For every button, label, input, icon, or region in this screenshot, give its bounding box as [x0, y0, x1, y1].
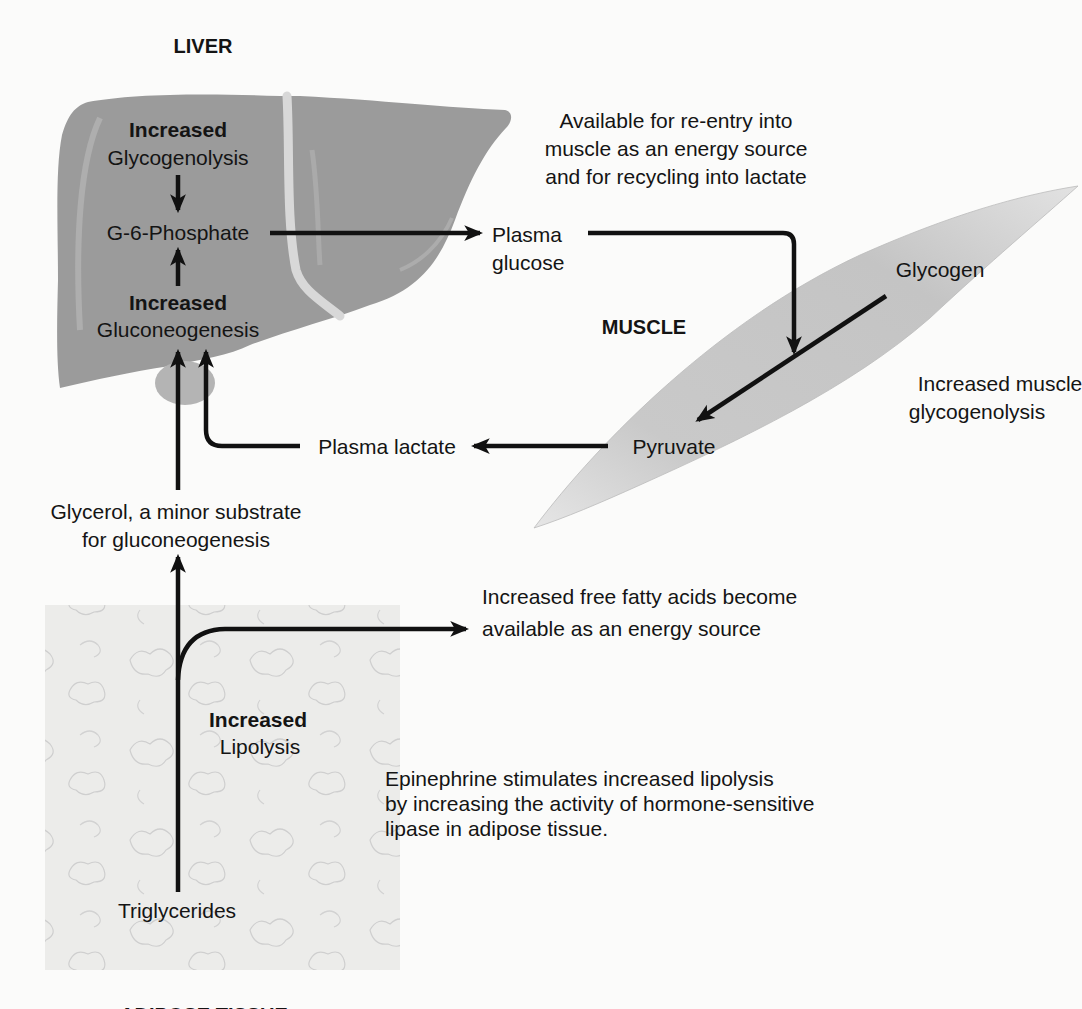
glycerol-line1: Glycerol, a minor substrate — [51, 500, 302, 523]
muscle-shape — [534, 186, 1078, 528]
glycogenolysis-label: Glycogenolysis — [107, 146, 248, 169]
lipolysis-qualifier: Increased — [209, 708, 307, 731]
epinephrine-line3: lipase in adipose tissue. — [385, 817, 608, 840]
adipose-title: ADIPOSE TISSUE — [120, 1004, 288, 1009]
glycogenolysis-qualifier: Increased — [129, 118, 227, 141]
glycogen-label: Glycogen — [896, 258, 985, 281]
liver-title: LIVER — [174, 35, 233, 57]
ffa-line1: Increased free fatty acids become — [482, 585, 797, 608]
ffa-line2: available as an energy source — [482, 617, 761, 640]
plasma-glucose-line2: glucose — [492, 251, 564, 274]
plasma-glucose-line1: Plasma — [492, 223, 562, 246]
lipolysis-label: Lipolysis — [220, 735, 301, 758]
arrow-lactate-to-gluconeogenesis — [206, 352, 300, 446]
gluconeogenesis-label: Gluconeogenesis — [97, 318, 259, 341]
muscle-title: MUSCLE — [602, 316, 686, 338]
pyruvate-label: Pyruvate — [633, 435, 716, 458]
glucose-fate-line1: Available for re-entry into — [559, 109, 792, 132]
plasma-lactate-label: Plasma lactate — [318, 435, 456, 458]
epinephrine-line1: Epinephrine stimulates increased lipolys… — [385, 767, 774, 790]
glucose-fate-line3: and for recycling into lactate — [545, 165, 806, 188]
muscle-glycogenolysis-line2: glycogenolysis — [909, 400, 1046, 423]
triglycerides-label: Triglycerides — [118, 899, 236, 922]
glucose-fate-line2: muscle as an energy source — [545, 137, 808, 160]
muscle-glycogenolysis-line1: Increased muscle — [918, 372, 1082, 395]
g6p-label: G-6-Phosphate — [107, 221, 249, 244]
glycerol-line2: for gluconeogenesis — [82, 528, 270, 551]
gluconeogenesis-qualifier: Increased — [129, 291, 227, 314]
liver-organ — [57, 94, 511, 405]
epinephrine-line2: by increasing the activity of hormone-se… — [385, 792, 815, 815]
metabolic-diagram: LIVER Increased Glycogenolysis G-6-Phosp… — [0, 0, 1082, 1009]
